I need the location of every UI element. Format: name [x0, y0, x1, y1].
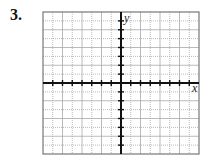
y-axis-label: y [123, 11, 130, 25]
coordinate-grid: x y [0, 0, 207, 166]
x-axis-label: x [191, 81, 198, 95]
